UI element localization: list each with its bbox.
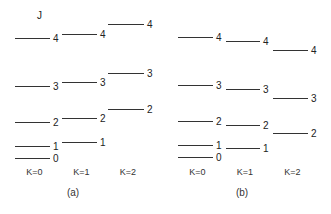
j-value-label: 4 [263, 36, 269, 47]
j-value-label: 3 [216, 80, 222, 91]
j-value-label: 4 [216, 32, 222, 43]
k-label: K=0 [189, 167, 205, 177]
k-column: 4321K=1 [226, 36, 269, 177]
panel-a: 43210K=04321K=1432K=2(a) [15, 19, 153, 198]
j-value-label: 1 [263, 143, 269, 154]
k-column: 432K=2 [108, 19, 153, 177]
j-value-label: 3 [263, 84, 269, 95]
j-value-label: 3 [311, 93, 317, 104]
j-value-label: 4 [53, 33, 59, 44]
k-label: K=1 [73, 167, 89, 177]
k-column: 432K=2 [273, 45, 317, 177]
j-value-label: 2 [100, 113, 106, 124]
j-value-label: 1 [216, 140, 222, 151]
j-value-label: 4 [311, 45, 317, 56]
energy-level-diagram: J 43210K=04321K=1432K=2(a)43210K=04321K=… [0, 0, 331, 214]
k-label: K=2 [284, 167, 300, 177]
k-label: K=1 [237, 167, 253, 177]
j-value-label: 2 [216, 116, 222, 127]
panel-b: 43210K=04321K=1432K=2(b) [178, 32, 317, 198]
k-label: K=0 [26, 167, 42, 177]
j-value-label: 2 [53, 117, 59, 128]
j-value-label: 3 [100, 77, 106, 88]
j-value-label: 4 [147, 19, 153, 30]
panel-caption: (a) [67, 187, 79, 198]
k-column: 43210K=0 [178, 32, 222, 177]
j-value-label: 2 [311, 128, 317, 139]
j-value-label: 4 [100, 29, 106, 40]
panel-caption: (b) [236, 187, 248, 198]
j-axis-label: J [37, 10, 42, 21]
j-value-label: 3 [147, 68, 153, 79]
k-column: 4321K=1 [62, 29, 106, 177]
j-value-label: 1 [100, 137, 106, 148]
j-value-label: 2 [147, 104, 153, 115]
j-value-label: 3 [53, 81, 59, 92]
j-value-label: 1 [53, 141, 59, 152]
j-value-label: 0 [53, 153, 59, 164]
j-value-label: 0 [216, 152, 222, 163]
j-value-label: 2 [263, 120, 269, 131]
k-label: K=2 [120, 167, 136, 177]
k-column: 43210K=0 [15, 33, 59, 177]
